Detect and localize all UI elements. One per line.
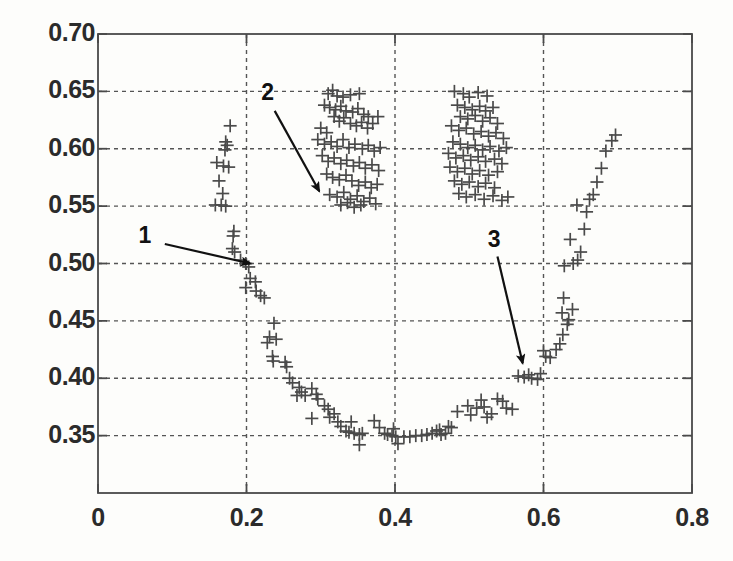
data-points <box>209 84 622 452</box>
data-point-marker <box>337 91 350 104</box>
data-point-marker <box>452 187 465 200</box>
data-point-marker <box>359 176 372 189</box>
data-point-marker <box>305 412 318 425</box>
data-point-marker <box>445 421 458 434</box>
annotation-arrow-3 <box>497 257 522 364</box>
data-point-marker <box>328 151 341 164</box>
data-point-marker <box>224 119 237 132</box>
data-point-marker <box>454 138 467 151</box>
data-point-marker <box>578 223 591 236</box>
data-point-marker <box>342 141 355 154</box>
x-axis-tick-label: 0.8 <box>652 503 732 532</box>
data-point-marker <box>320 167 333 180</box>
data-point-marker <box>362 139 375 152</box>
data-point-marker <box>216 187 229 200</box>
data-point-marker <box>461 399 474 412</box>
data-point-marker <box>564 233 577 246</box>
data-point-marker <box>506 403 519 416</box>
data-point-marker <box>344 117 357 130</box>
data-point-marker <box>359 162 372 175</box>
data-point-marker <box>267 317 280 330</box>
y-axis-tick-label: 0.50 <box>0 248 95 277</box>
x-axis-tick-label: 0.6 <box>504 503 584 532</box>
data-point-marker <box>476 115 489 128</box>
data-point-marker <box>316 149 329 162</box>
data-point-marker <box>458 162 471 175</box>
data-point-marker <box>326 171 339 184</box>
annotation-label-3: 3 <box>488 226 501 253</box>
y-axis-tick-label: 0.70 <box>0 18 95 47</box>
data-point-marker <box>357 195 370 208</box>
y-axis-tick-label: 0.40 <box>0 362 95 391</box>
scatter-plot-figure: 0.350.400.450.500.550.600.650.7000.20.40… <box>0 0 733 561</box>
data-point-marker <box>347 159 360 172</box>
data-point-marker <box>353 438 366 451</box>
data-point-marker <box>369 197 382 210</box>
data-point-marker <box>403 430 416 443</box>
x-axis-tick-label: 0.2 <box>207 503 287 532</box>
data-point-marker <box>599 145 612 158</box>
data-point-marker <box>446 135 459 148</box>
annotation-arrow-1 <box>165 244 250 264</box>
gridlines <box>98 34 692 493</box>
y-axis-tick-label: 0.35 <box>0 420 95 449</box>
data-point-marker <box>451 99 464 112</box>
data-point-marker <box>460 122 473 135</box>
x-axis-tick-label: 0 <box>58 503 138 532</box>
annotation-label-1: 1 <box>138 222 151 249</box>
data-point-marker <box>353 87 366 100</box>
data-point-marker <box>448 174 461 187</box>
data-point-marker <box>478 400 491 413</box>
data-point-marker <box>374 141 387 154</box>
annotation-label-2: 2 <box>261 79 274 106</box>
data-point-marker <box>337 133 350 146</box>
data-point-marker <box>365 158 378 171</box>
data-point-marker <box>372 164 385 177</box>
y-axis-tick-label: 0.65 <box>0 75 95 104</box>
data-point-marker <box>466 167 479 180</box>
data-point-marker <box>457 87 470 100</box>
data-point-marker <box>323 188 336 201</box>
data-point-marker <box>261 336 274 349</box>
data-point-marker <box>460 190 473 203</box>
data-point-marker <box>210 156 223 169</box>
data-point-marker <box>353 156 366 169</box>
data-point-marker <box>455 178 468 191</box>
data-point-marker <box>489 126 502 139</box>
data-point-marker <box>590 176 603 189</box>
data-point-marker <box>340 154 353 167</box>
data-point-marker <box>467 127 480 140</box>
data-point-marker <box>344 88 357 101</box>
data-point-marker <box>363 192 376 205</box>
data-point-marker <box>500 141 513 154</box>
data-point-marker <box>213 174 226 187</box>
data-point-marker <box>497 132 510 145</box>
data-point-marker <box>334 157 347 170</box>
y-axis-tick-label: 0.55 <box>0 190 95 219</box>
data-point-marker <box>371 178 384 191</box>
y-axis-tick-label: 0.60 <box>0 133 95 162</box>
data-point-marker <box>501 190 514 203</box>
x-axis-tick-label: 0.4 <box>355 503 435 532</box>
data-point-marker <box>556 306 569 319</box>
data-point-marker <box>322 155 335 168</box>
data-point-marker <box>448 85 461 98</box>
data-point-marker <box>368 145 381 158</box>
data-point-marker <box>226 242 239 255</box>
data-point-marker <box>491 117 504 130</box>
data-point-marker <box>270 333 283 346</box>
data-point-marker <box>391 437 404 450</box>
data-point-marker <box>464 408 477 421</box>
data-point-marker <box>512 369 525 382</box>
plot-canvas <box>0 0 733 561</box>
data-point-marker <box>442 420 455 433</box>
data-point-marker <box>451 405 464 418</box>
data-point-marker <box>580 205 593 218</box>
data-point-marker <box>228 246 241 259</box>
data-point-marker <box>574 246 587 259</box>
y-axis-tick-label: 0.45 <box>0 305 95 334</box>
data-point-marker <box>570 198 583 211</box>
data-point-marker <box>557 291 570 304</box>
data-point-marker <box>487 101 500 114</box>
data-point-marker <box>537 344 550 357</box>
